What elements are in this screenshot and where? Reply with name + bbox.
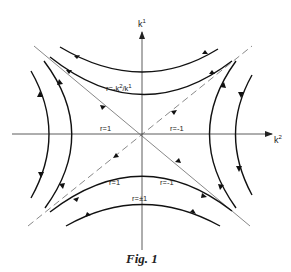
trajectory-top-inner (50, 57, 232, 95)
trajectory-right-outer (236, 75, 253, 195)
arrow-icon (202, 50, 208, 54)
k2-axis-label: k2 (274, 134, 283, 145)
arrow-icon (59, 183, 65, 189)
arrow-icon (175, 158, 181, 163)
label-bottom-left: r=1 (109, 178, 120, 187)
label-bottom-center: r=±1 (132, 194, 147, 203)
label-bottom-right: r=-1 (160, 178, 174, 187)
saddle-phase-diagram: k1 k2 r=-k2/k1 r=1 r=-1 r=1 r=-1 r=±1 Fi… (0, 0, 291, 272)
trajectory-top-outer (60, 47, 218, 72)
arrow-icon (100, 105, 106, 110)
arrow-icon (209, 70, 215, 74)
trajectory-left-outer (31, 71, 49, 198)
label-right-axis: r=-1 (170, 124, 184, 133)
k1-axis-label: k1 (138, 18, 147, 29)
figure-caption: Fig. 1 (125, 251, 158, 266)
arrow-icon (85, 212, 91, 217)
arrow-icon (38, 172, 44, 178)
arrow-icon (73, 197, 79, 202)
arrow-icon (171, 110, 177, 115)
flow-arrows (37, 50, 244, 217)
label-left-axis: r=1 (100, 124, 111, 133)
